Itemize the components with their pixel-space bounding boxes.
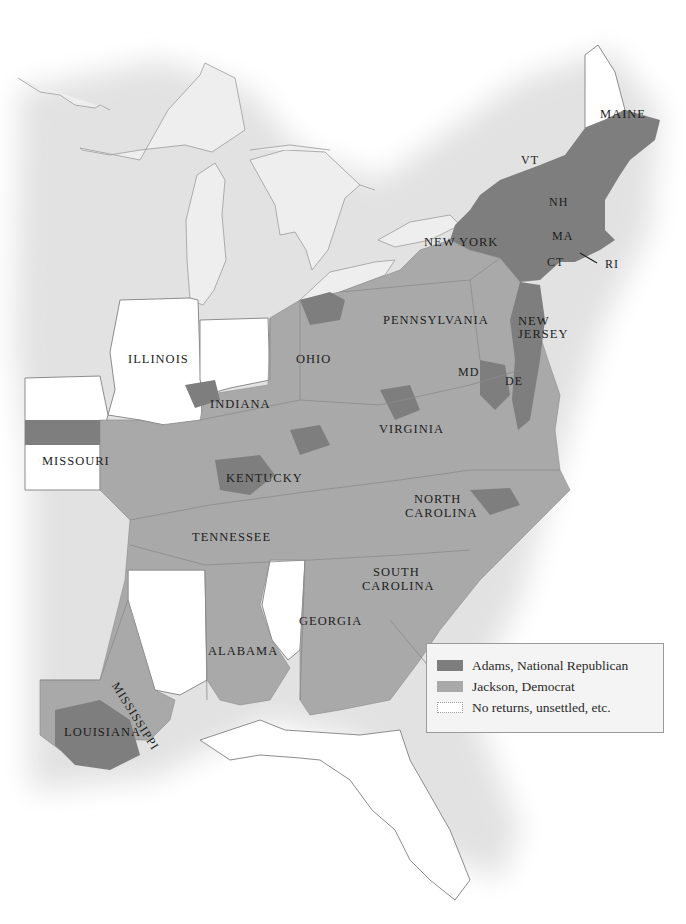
legend-label-jackson: Jackson, Democrat <box>472 679 575 695</box>
label-south-carolina-1: SOUTH <box>373 566 420 579</box>
legend-label-adams: Adams, National Republican <box>472 658 628 674</box>
label-kentucky: KENTUCKY <box>226 472 303 485</box>
label-maine: MAINE <box>600 108 646 121</box>
label-south-carolina-2: CAROLINA <box>362 580 435 593</box>
legend-swatch-jackson <box>437 681 463 692</box>
label-north-carolina-1: NORTH <box>414 493 461 506</box>
label-ri: RI <box>605 258 619 271</box>
label-vt: VT <box>521 154 539 167</box>
label-md: MD <box>458 366 479 379</box>
label-ct: CT <box>547 256 564 269</box>
legend-swatch-none <box>437 702 463 713</box>
label-louisiana: LOUISIANA <box>64 726 141 739</box>
label-nh: NH <box>549 196 568 209</box>
label-new-york: NEW YORK <box>424 236 498 249</box>
legend-label-none: No returns, unsettled, etc. <box>472 700 611 716</box>
label-virginia: VIRGINIA <box>379 423 444 436</box>
label-ohio: OHIO <box>296 353 331 366</box>
label-pennsylvania: PENNSYLVANIA <box>383 314 489 327</box>
legend-item-none: No returns, unsettled, etc. <box>437 697 663 718</box>
label-ma: MA <box>552 230 573 243</box>
label-new-jersey-2: JERSEY <box>518 328 568 341</box>
map-legend: Adams, National Republican Jackson, Demo… <box>426 643 664 733</box>
label-north-carolina-2: CAROLINA <box>405 507 478 520</box>
label-alabama: ALABAMA <box>208 645 278 658</box>
label-tennessee: TENNESSEE <box>192 531 271 544</box>
legend-item-jackson: Jackson, Democrat <box>437 676 663 697</box>
missouri-strip <box>25 420 100 445</box>
label-indiana: INDIANA <box>210 398 270 411</box>
legend-swatch-adams <box>437 660 463 671</box>
label-georgia: GEORGIA <box>299 615 362 628</box>
legend-item-adams: Adams, National Republican <box>437 655 663 676</box>
label-de: DE <box>505 375 523 388</box>
label-illinois: ILLINOIS <box>128 353 189 366</box>
label-missouri: MISSOURI <box>42 455 110 468</box>
